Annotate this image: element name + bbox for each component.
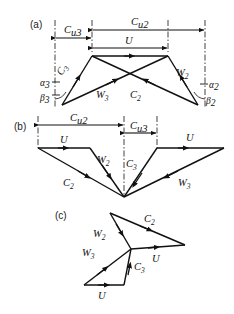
velocity-triangle-figure: (a) Cu3 Cu2 U C3 W3 C2 W2 xyxy=(0,0,234,314)
panel-a-label: (a) xyxy=(30,19,42,30)
figure-canvas: (a) Cu3 Cu2 U C3 W3 C2 W2 xyxy=(0,0,234,314)
panel-c-label: (c) xyxy=(55,210,67,221)
panel-b-label: (b) xyxy=(14,121,26,132)
figure-background xyxy=(0,0,234,314)
